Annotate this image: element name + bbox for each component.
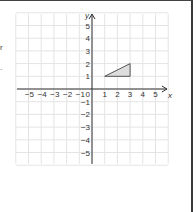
y-tick-label: −3 — [81, 123, 91, 132]
y-tick-label: 3 — [86, 47, 91, 56]
coordinate-plane: xy−5−4−3−2−101234512345−1−2−3−4−5 — [0, 0, 196, 212]
x-tick-label: −4 — [38, 90, 48, 99]
x-tick-label: −3 — [50, 90, 60, 99]
y-tick-label: −4 — [81, 136, 91, 145]
x-tick-label: −5 — [25, 90, 35, 99]
tick-labels: xy−5−4−3−2−101234512345−1−2−3−4−5 — [25, 11, 173, 157]
right-gutter — [193, 0, 196, 212]
page-frame: r . xy−5−4−3−2−101234512345−1−2−3−4−5 — [0, 0, 196, 212]
y-tick-label: 5 — [86, 22, 91, 31]
axes — [17, 14, 167, 164]
x-tick-label: 5 — [153, 90, 158, 99]
y-tick-label: −5 — [81, 149, 91, 158]
y-tick-label: 1 — [86, 72, 91, 81]
y-tick-label: 2 — [86, 60, 91, 69]
x-tick-label: 3 — [128, 90, 133, 99]
x-axis-label: x — [167, 91, 173, 100]
y-tick-label: −1 — [81, 98, 91, 107]
y-tick-label: −2 — [81, 110, 91, 119]
x-tick-label: 2 — [115, 90, 120, 99]
x-tick-label: −2 — [63, 90, 73, 99]
y-tick-label: 4 — [86, 34, 91, 43]
x-tick-label: 1 — [102, 90, 107, 99]
x-tick-label: 4 — [141, 90, 146, 99]
